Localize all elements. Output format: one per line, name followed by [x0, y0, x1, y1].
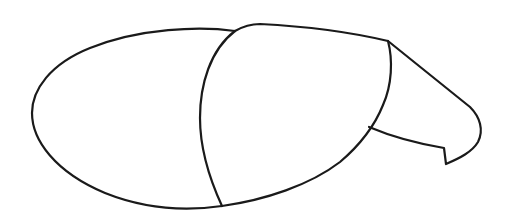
segmented-shape-drawing — [0, 0, 506, 219]
middle-segment-divider — [200, 31, 235, 206]
right-segment-outline — [369, 41, 481, 164]
figure-canvas — [0, 0, 506, 219]
middle-segment-right-boundary — [222, 41, 391, 206]
middle-segment-top — [235, 24, 388, 41]
left-segment-outline — [32, 29, 235, 209]
